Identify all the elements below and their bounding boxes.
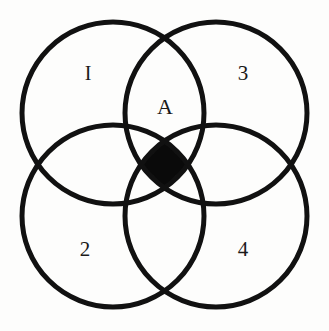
four-circle-venn-diagram xyxy=(0,0,329,331)
top-right-circle xyxy=(125,22,307,204)
region-label-bottom-right: 4 xyxy=(238,239,249,260)
central-intersection-fill xyxy=(141,141,188,188)
top-left-circle xyxy=(22,22,204,204)
region-label-bottom-left: 2 xyxy=(80,239,91,260)
venn-figure: I 3 A 2 4 xyxy=(0,0,329,331)
region-label-top-right: 3 xyxy=(238,63,249,84)
region-label-center-a: A xyxy=(157,96,173,118)
bottom-left-circle xyxy=(22,125,204,307)
bottom-right-circle xyxy=(125,125,307,307)
region-label-top-left: I xyxy=(85,63,92,83)
